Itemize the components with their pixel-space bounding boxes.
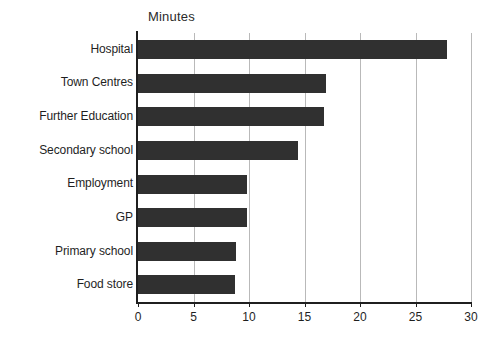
bar[interactable] xyxy=(138,208,247,227)
category-axis-labels: HospitalTown CentresFurther EducationSec… xyxy=(0,33,133,302)
tick-label-20: 20 xyxy=(353,310,366,324)
category-label: Employment xyxy=(0,176,133,190)
plot-area xyxy=(138,33,471,302)
bar-chart: Minutes HospitalTown CentresFurther Educ… xyxy=(0,0,489,339)
bar[interactable] xyxy=(138,242,236,261)
bars-layer xyxy=(138,33,471,302)
tick-label-30: 30 xyxy=(464,310,477,324)
tick-label-0: 0 xyxy=(135,310,142,324)
bar[interactable] xyxy=(138,175,247,194)
tick-mark-10 xyxy=(249,302,250,307)
bar-row xyxy=(138,134,471,168)
category-label: Town Centres xyxy=(0,75,133,89)
category-label: GP xyxy=(0,210,133,224)
bar-row xyxy=(138,268,471,302)
bar[interactable] xyxy=(138,107,324,126)
gridline-30 xyxy=(471,33,472,302)
category-label: Secondary school xyxy=(0,143,133,157)
y-axis-line xyxy=(136,31,138,303)
category-label: Further Education xyxy=(0,109,133,123)
tick-mark-25 xyxy=(416,302,417,307)
category-label: Hospital xyxy=(0,42,133,56)
bar-row xyxy=(138,201,471,235)
tick-mark-5 xyxy=(194,302,195,307)
bar-row xyxy=(138,33,471,67)
tick-label-5: 5 xyxy=(190,310,197,324)
bar[interactable] xyxy=(138,40,447,59)
bar-row xyxy=(138,100,471,134)
bar[interactable] xyxy=(138,275,235,294)
chart-title: Minutes xyxy=(148,9,195,24)
tick-label-10: 10 xyxy=(242,310,255,324)
tick-label-15: 15 xyxy=(298,310,311,324)
bar-row xyxy=(138,67,471,101)
tick-mark-30 xyxy=(471,302,472,307)
bar-row xyxy=(138,235,471,269)
bar[interactable] xyxy=(138,141,298,160)
tick-mark-15 xyxy=(305,302,306,307)
category-label: Food store xyxy=(0,277,133,291)
bar-row xyxy=(138,168,471,202)
tick-label-25: 25 xyxy=(409,310,422,324)
x-axis-ticks: 051015202530 xyxy=(138,302,471,338)
tick-mark-20 xyxy=(360,302,361,307)
tick-mark-0 xyxy=(138,302,139,307)
bar[interactable] xyxy=(138,74,326,93)
category-label: Primary school xyxy=(0,244,133,258)
